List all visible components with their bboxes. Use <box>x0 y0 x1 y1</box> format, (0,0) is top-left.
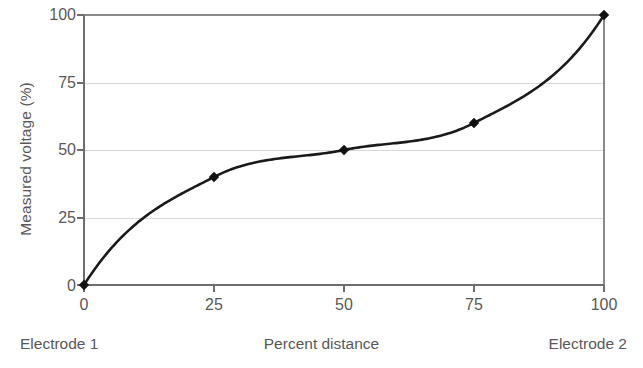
x-tick-label-25: 25 <box>184 297 244 313</box>
data-point-marker <box>209 172 219 182</box>
x-tick-label-100: 100 <box>574 297 634 313</box>
caption-percent-distance: Percent distance <box>0 336 643 352</box>
y-tick-label-0: 0 <box>36 278 76 294</box>
y-tick-label-75: 75 <box>36 75 76 91</box>
y-tick-label-25: 25 <box>36 210 76 226</box>
y-axis-ticks <box>77 15 84 285</box>
y-axis-tick-labels: 100 75 50 25 0 <box>28 0 76 300</box>
x-tick-label-0: 0 <box>54 297 114 313</box>
caption-electrode-2: Electrode 2 <box>549 336 627 352</box>
y-tick-label-100: 100 <box>36 7 76 23</box>
chart-figure: Measured voltage (%) 100 75 50 25 0 <box>0 0 643 368</box>
data-point-marker <box>469 118 479 128</box>
data-point-marker <box>339 145 349 155</box>
x-tick-label-50: 50 <box>314 297 374 313</box>
x-axis-ticks <box>84 285 604 292</box>
y-tick-label-50: 50 <box>36 142 76 158</box>
x-tick-label-75: 75 <box>444 297 504 313</box>
